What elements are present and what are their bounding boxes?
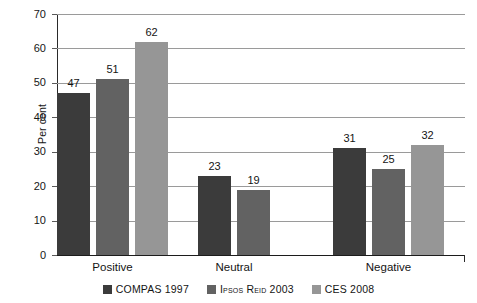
bar: [96, 79, 129, 255]
y-tick-label: 30: [2, 146, 46, 157]
bar-value-label: 32: [405, 130, 450, 141]
x-category-label: Negative: [339, 261, 439, 273]
bar: [411, 145, 444, 255]
bar: [57, 93, 90, 255]
bar: [198, 176, 231, 255]
legend-swatch-icon: [207, 285, 216, 294]
legend-item: COMPAS 1997: [103, 283, 189, 295]
gridline: [57, 14, 465, 15]
plot-area: 4751622319312532: [57, 14, 465, 255]
x-category-label: Neutral: [184, 261, 284, 273]
legend-swatch-icon: [312, 285, 321, 294]
legend-label: Ipsos Reid 2003: [220, 283, 294, 295]
x-category-label: Positive: [63, 261, 163, 273]
y-tick-label: 40: [2, 112, 46, 123]
bar-value-label: 25: [366, 154, 411, 165]
legend-label: COMPAS 1997: [116, 283, 189, 295]
bar-value-label: 51: [90, 64, 135, 75]
legend-item: Ipsos Reid 2003: [207, 283, 294, 295]
x-axis-baseline: [57, 255, 465, 256]
bar-value-label: 31: [327, 133, 372, 144]
y-tick-label: 50: [2, 77, 46, 88]
bar: [237, 190, 270, 255]
y-tick-label: 10: [2, 215, 46, 226]
bar-value-label: 62: [129, 27, 174, 38]
gridline: [57, 48, 465, 49]
legend-label: CES 2008: [325, 283, 374, 295]
bar-chart: Per cent 010203040506070 475162231931253…: [0, 0, 477, 303]
bar-value-label: 47: [51, 78, 96, 89]
bar: [333, 148, 366, 255]
bar: [372, 169, 405, 255]
bar-value-label: 23: [192, 161, 237, 172]
y-tick-label: 20: [2, 181, 46, 192]
x-axis-end-tick: [464, 255, 465, 262]
y-tick-label: 60: [2, 43, 46, 54]
legend-swatch-icon: [103, 285, 112, 294]
y-tick-label: 70: [2, 9, 46, 20]
legend-item: CES 2008: [312, 283, 374, 295]
chart-legend: COMPAS 1997Ipsos Reid 2003CES 2008: [0, 283, 477, 295]
bar-value-label: 19: [231, 175, 276, 186]
bar: [135, 42, 168, 255]
y-tick-label: 0: [2, 250, 46, 261]
